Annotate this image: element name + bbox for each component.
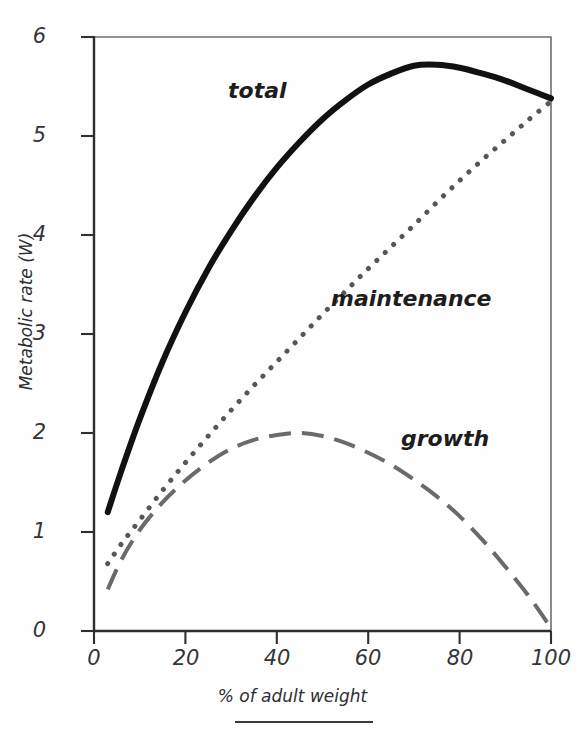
series-curves (108, 64, 551, 628)
y-tick-label-1: 1 (6, 521, 46, 542)
y-tick-label-2: 2 (6, 422, 46, 443)
series-label-maintenance: maintenance (331, 288, 492, 310)
y-tick-label-5: 5 (6, 125, 46, 146)
x-axis-title: % of adult weight (0, 688, 585, 705)
y-tick-label-6: 6 (6, 26, 46, 47)
growth-curve (108, 433, 551, 628)
y-axis-title: Metabolic rate (W) (16, 233, 36, 391)
x-tick-label-100: 100 (521, 648, 581, 669)
footer-rule (235, 721, 373, 723)
x-tick-label-40: 40 (247, 648, 307, 669)
series-label-total: total (228, 80, 287, 102)
x-tick-label-0: 0 (64, 648, 124, 669)
x-axis-ticks (94, 631, 551, 644)
series-label-growth: growth (401, 428, 489, 450)
metabolic-rate-chart (0, 0, 585, 748)
x-tick-label-60: 60 (338, 648, 398, 669)
y-tick-label-0: 0 (6, 620, 46, 641)
x-tick-label-20: 20 (156, 648, 216, 669)
x-tick-label-80: 80 (430, 648, 490, 669)
y-axis-ticks (81, 37, 94, 631)
figure-root: 6 5 4 3 2 1 0 0 20 40 60 80 100 Metaboli… (0, 0, 585, 748)
y-axis-title-wrapper: Metabolic rate (W) (17, 222, 36, 402)
